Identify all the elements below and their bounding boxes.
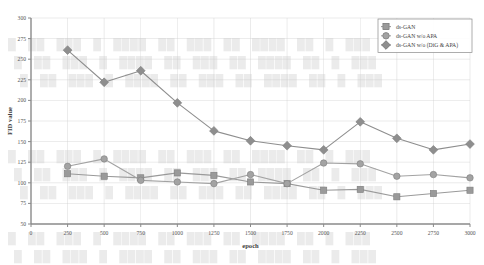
data-point-marker	[137, 177, 144, 184]
legend-label-1: ds-GAN w/o APA	[396, 33, 438, 39]
chart-plot-area: 0250500750100012501500175020002250250027…	[0, 0, 484, 265]
data-point-marker	[319, 145, 328, 154]
data-point-marker	[246, 136, 255, 145]
data-point-marker	[466, 140, 475, 149]
data-point-marker	[101, 156, 108, 163]
svg-text:50: 50	[20, 221, 26, 227]
svg-text:200: 200	[18, 97, 27, 103]
data-point-marker	[284, 180, 291, 187]
data-point-marker	[64, 163, 71, 170]
chart-legend: ds-GANds-GAN w/o APAds-GAN w/o (DiG & AP…	[378, 19, 472, 53]
svg-text:100: 100	[18, 180, 27, 186]
svg-text:1500: 1500	[245, 230, 256, 236]
data-point-marker	[356, 117, 365, 126]
svg-text:250: 250	[18, 56, 27, 62]
data-point-marker	[321, 187, 327, 193]
data-point-marker	[64, 171, 70, 177]
data-point-marker	[357, 186, 363, 192]
svg-text:2500: 2500	[391, 230, 402, 236]
fid-value-line-chart: 0250500750100012501500175020002250250027…	[0, 0, 484, 265]
svg-text:1750: 1750	[281, 230, 292, 236]
data-point-marker	[429, 145, 438, 154]
svg-text:1000: 1000	[172, 230, 183, 236]
svg-text:2000: 2000	[318, 230, 329, 236]
data-point-marker	[283, 141, 292, 150]
data-point-marker	[383, 24, 389, 30]
data-point-marker	[247, 179, 253, 185]
series-0	[64, 170, 473, 200]
data-point-marker	[247, 171, 254, 178]
legend-label-0: ds-GAN	[396, 24, 415, 30]
data-point-marker	[467, 187, 473, 193]
data-point-marker	[101, 173, 107, 179]
svg-text:3000: 3000	[464, 230, 475, 236]
svg-text:epoch: epoch	[242, 242, 259, 249]
svg-text:750: 750	[137, 230, 146, 236]
legend-label-2: ds-GAN w/o (DiG & APA)	[396, 42, 458, 49]
data-point-marker	[430, 171, 437, 178]
svg-text:0: 0	[30, 230, 33, 236]
data-point-marker	[211, 180, 218, 187]
data-point-marker	[383, 33, 389, 39]
figure-container: █ ██ ███ █ ████ ██ ███ ██ ████ ██ █ ████…	[0, 0, 484, 265]
svg-text:250: 250	[63, 230, 72, 236]
svg-text:125: 125	[18, 159, 27, 165]
data-point-marker	[394, 173, 401, 180]
data-point-marker	[174, 179, 181, 186]
svg-text:2750: 2750	[428, 230, 439, 236]
svg-text:275: 275	[18, 36, 27, 42]
svg-text:1250: 1250	[208, 230, 219, 236]
series-2	[63, 46, 474, 155]
svg-text:175: 175	[18, 118, 27, 124]
svg-text:500: 500	[100, 230, 109, 236]
data-series	[63, 46, 474, 200]
svg-text:FID value: FID value	[6, 107, 13, 135]
svg-text:225: 225	[18, 77, 27, 83]
data-point-marker	[211, 172, 217, 178]
data-point-marker	[174, 170, 180, 176]
data-point-marker	[210, 126, 219, 135]
data-point-marker	[394, 194, 400, 200]
data-point-marker	[357, 161, 364, 168]
svg-text:150: 150	[18, 139, 27, 145]
data-point-marker	[467, 175, 474, 182]
svg-text:75: 75	[20, 200, 26, 206]
svg-text:2250: 2250	[355, 230, 366, 236]
svg-text:300: 300	[18, 15, 27, 21]
series-1	[64, 156, 473, 187]
data-point-marker	[430, 190, 436, 196]
data-point-marker	[320, 160, 327, 167]
